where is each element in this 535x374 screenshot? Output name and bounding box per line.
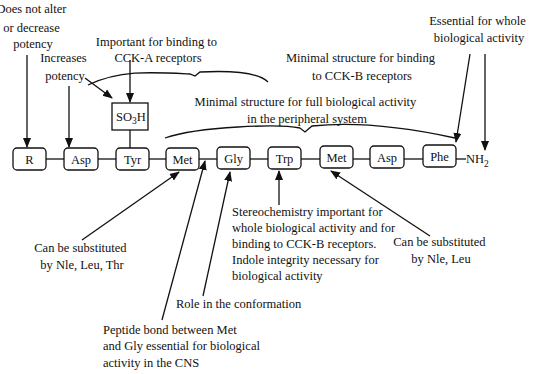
annotation-asp1: Increases potency [40, 51, 90, 83]
brace-cck-b [88, 71, 268, 85]
annotation-r-group: Does not alter or decrease potency [0, 2, 70, 51]
brace-peripheral [165, 125, 455, 139]
annotation-peripheral-minimal: Minimal structure for full biological ac… [195, 95, 420, 126]
residue-trp: Trp [268, 147, 301, 169]
svg-text:R: R [25, 153, 34, 167]
annotation-gly-role: Role in the conformation [176, 297, 302, 311]
residue-tyr: Tyr [116, 148, 149, 170]
annotation-met2-substitution: Can be substituted by Nle, Leu [393, 235, 488, 266]
residue-met-1: Met [166, 148, 199, 170]
residue-asp-1: Asp [64, 148, 98, 170]
residue-met-2: Met [320, 146, 353, 168]
svg-text:SO3H: SO3H [116, 110, 146, 126]
c-terminus-amide: NH2 [466, 152, 489, 169]
annotation-phe-nh2: Essential for whole biological activity [429, 14, 529, 45]
svg-text:Tyr: Tyr [124, 153, 142, 167]
svg-text:Asp: Asp [71, 153, 91, 167]
cck-structure-activity-diagram: R Asp Tyr Met Gly Trp Met Asp Phe NH2 SO… [0, 0, 535, 374]
residue-asp-2: Asp [370, 146, 404, 168]
svg-text:Trp: Trp [276, 152, 294, 166]
residue-r: R [13, 148, 46, 170]
svg-text:Phe: Phe [430, 150, 449, 164]
annotation-peptide-bond: Peptide bond between Met and Gly essenti… [103, 323, 263, 370]
annotation-trp: Stereochemistry important for whole biol… [232, 205, 398, 283]
svg-text:Gly: Gly [224, 152, 244, 166]
svg-text:Met: Met [172, 153, 193, 167]
sulfate-group: SO3H [112, 103, 148, 130]
residue-phe: Phe [423, 145, 456, 167]
annotation-met1-substitution: Can be substituted by Nle, Leu, Thr [34, 241, 129, 272]
svg-text:Asp: Asp [377, 151, 397, 165]
residue-gly: Gly [217, 147, 250, 169]
svg-text:Met: Met [326, 151, 347, 165]
annotation-sulfate-binding: Important for binding to CCK-A receptors [96, 35, 220, 65]
annotation-cck-b-minimal: Minimal structure for binding to CCK-B r… [286, 51, 438, 83]
